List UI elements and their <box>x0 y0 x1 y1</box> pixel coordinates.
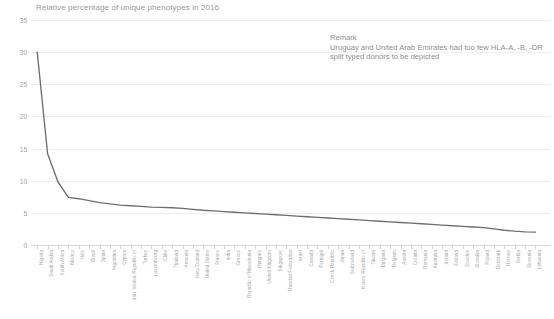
x-axis-tick-label: Hungary <box>257 250 262 268</box>
x-axis-tick-label: United States <box>205 250 210 278</box>
x-axis-tick-label: Spain <box>101 250 106 262</box>
x-axis-tick-label: Canada <box>309 250 314 266</box>
x-axis-tick-label: Turkey <box>143 250 148 264</box>
x-axis-tick <box>504 246 505 249</box>
x-axis-tick-label: Bulgaria <box>381 250 386 267</box>
y-axis-tick-label: 20 <box>20 113 27 120</box>
x-axis-tick <box>162 246 163 249</box>
x-axis-tick-label: Austria <box>402 250 407 265</box>
x-axis-tick-label: Brazil <box>91 250 96 262</box>
x-axis-tick-label: Norway <box>506 250 511 266</box>
x-axis-tick-label: Ireland <box>444 250 449 264</box>
x-axis-tick <box>224 246 225 249</box>
x-axis-tick-label: New Zealand <box>195 250 200 278</box>
x-axis-tick <box>100 246 101 249</box>
x-axis-tick <box>68 246 69 249</box>
x-axis-tick-label: Portugal <box>319 250 324 268</box>
x-axis-tick <box>172 246 173 249</box>
x-axis-tick <box>380 246 381 249</box>
x-axis-tick <box>401 246 402 249</box>
x-axis-tick <box>245 246 246 249</box>
x-axis-tick <box>494 246 495 249</box>
x-axis-tick <box>120 246 121 249</box>
x-axis-tick <box>515 246 516 249</box>
x-axis-tick-label: Lithuania <box>537 250 542 269</box>
x-axis-tick <box>58 246 59 249</box>
x-axis-tick-label: Israel <box>298 250 303 262</box>
x-axis-tick <box>317 246 318 249</box>
x-axis-tick <box>214 246 215 249</box>
x-axis-tick <box>525 246 526 249</box>
x-axis-tick <box>432 246 433 249</box>
x-axis-tick <box>359 246 360 249</box>
x-axis-tick-label: Australia <box>433 250 438 268</box>
x-axis-tick-label: Singapore <box>278 250 283 271</box>
chart-title: Relative percentage of unique phenotypes… <box>36 3 219 12</box>
x-axis-tick <box>266 246 267 249</box>
x-axis-tick <box>473 246 474 249</box>
x-axis-tick <box>338 246 339 249</box>
x-axis-tick <box>411 246 412 249</box>
x-axis-tick <box>328 246 329 249</box>
y-axis-tick-label: 10 <box>20 177 27 184</box>
x-axis-tick-label: Taiwan <box>371 250 376 265</box>
x-axis-tick-label: Serbia <box>516 250 521 264</box>
y-axis-tick-label: 15 <box>20 145 27 152</box>
y-axis-tick-label: 25 <box>20 81 27 88</box>
x-axis-tick <box>131 246 132 249</box>
remark-body: Uruguay and United Arab Emirates had too… <box>330 43 546 62</box>
x-axis-tick-label: Czech Republic <box>330 250 335 283</box>
x-axis-tick <box>203 246 204 249</box>
x-axis-tick-label: Argentina <box>112 250 117 270</box>
x-axis-tick <box>442 246 443 249</box>
x-axis-tick-label: Mexico <box>70 250 75 265</box>
x-axis-tick-label: Thailand <box>174 250 179 268</box>
x-axis-tick-label: Croatia <box>413 250 418 265</box>
x-axis-tick <box>286 246 287 249</box>
x-axis-tick <box>452 246 453 249</box>
x-axis-tick <box>349 246 350 249</box>
x-axis-tick <box>37 246 38 249</box>
x-axis-tick-label: Finland <box>454 250 459 265</box>
x-axis-tick-label: Armenia <box>184 250 189 267</box>
x-axis-tick-label: South Africa <box>60 250 65 275</box>
x-axis-tick-label: Switzerland <box>350 250 355 274</box>
x-axis-tick-label: Poland <box>485 250 490 265</box>
y-axis-labels: 05101520253035 <box>0 20 31 245</box>
x-axis-tick-label: France <box>215 250 220 265</box>
x-axis-tick-label: Chile <box>163 250 168 261</box>
x-axis-tick-label: Slovakia <box>475 250 480 268</box>
x-axis-labels: NigeriaSaudi ArabiaSouth AfricaMexicoIta… <box>31 250 550 319</box>
x-axis-tick-label: Korea, Republic of <box>361 250 366 289</box>
x-axis-tick-label: Greece <box>236 250 241 265</box>
x-axis-tick <box>390 246 391 249</box>
x-axis-tick <box>535 246 536 249</box>
x-axis-tick <box>463 246 464 249</box>
x-axis-tick-label: Italy <box>80 250 85 259</box>
y-axis-tick-label: 5 <box>23 209 27 216</box>
x-axis-tick <box>89 246 90 249</box>
x-axis-tick <box>141 246 142 249</box>
x-axis-tick <box>255 246 256 249</box>
x-axis-tick-label: Luxembourg <box>153 250 158 276</box>
x-axis-tick-label: Romania <box>423 250 428 269</box>
y-axis-tick-label: 30 <box>20 49 27 56</box>
x-axis-tick-label: Russian Federation <box>288 250 293 291</box>
x-axis-tick <box>297 246 298 249</box>
x-axis-tick-label: United Kingdom <box>267 250 272 283</box>
y-axis-tick-label: 0 <box>23 242 27 249</box>
x-axis-tick <box>193 246 194 249</box>
remark-title: Remark <box>330 33 546 43</box>
x-axis-tick-label: Cyprus <box>122 250 127 265</box>
x-axis-tick-label: Belgium <box>392 250 397 267</box>
x-axis-tick-label: Iran, Islamic Republic of <box>132 250 137 300</box>
chart-container: Relative percentage of unique phenotypes… <box>0 0 554 319</box>
x-axis-tick <box>79 246 80 249</box>
x-axis-tick <box>421 246 422 249</box>
remark-annotation: Remark Uruguay and United Arab Emirates … <box>330 33 546 62</box>
x-axis-tick-label: Denmark <box>496 250 501 269</box>
x-axis-tick <box>484 246 485 249</box>
x-axis-tick-label: India <box>226 250 231 260</box>
x-axis-tick-label: Saudi Arabia <box>49 250 54 277</box>
x-axis-tick <box>110 246 111 249</box>
